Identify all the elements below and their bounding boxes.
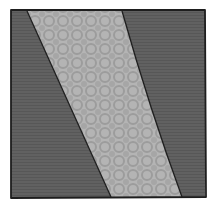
quilt-block-drawing <box>0 0 215 210</box>
